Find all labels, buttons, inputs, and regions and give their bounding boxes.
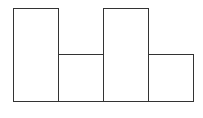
bar-3 xyxy=(103,8,149,102)
bar-4 xyxy=(148,54,194,102)
bar-chart xyxy=(0,0,203,118)
bar-1 xyxy=(13,8,59,102)
bar-2 xyxy=(58,54,104,102)
